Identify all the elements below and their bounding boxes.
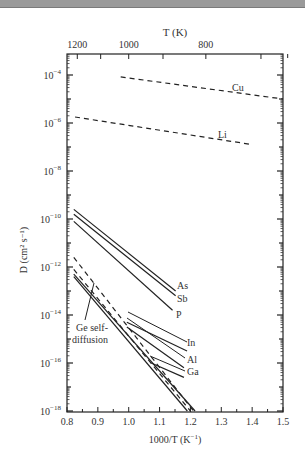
y-tick-label: 10−12 <box>40 260 61 273</box>
x-tick-label: 1.4 <box>246 416 259 427</box>
y-tick-label: 10−16 <box>40 356 61 369</box>
y-axis-title: D (cm² s⁻¹) <box>18 227 30 273</box>
y-tick-label: 10−14 <box>40 308 61 321</box>
x-tick-label: 1.0 <box>122 416 135 427</box>
label-al: Al <box>187 354 197 365</box>
label-ga: Ga <box>187 366 199 377</box>
top-axis-title: T (K) <box>163 26 188 39</box>
x-axis-title: 1000/T (K−1) <box>149 433 202 446</box>
axes-frame <box>67 54 283 412</box>
x-tick-label: 1.5 <box>277 416 290 427</box>
label-sb: Sb <box>177 293 188 304</box>
series-sb <box>74 214 176 296</box>
plot-frame <box>67 54 283 412</box>
top-x-tick-label: 1200 <box>67 39 87 50</box>
series-p <box>74 221 173 310</box>
label-ge-line1: Ge self- <box>76 322 108 333</box>
top-x-tick-label: 1000 <box>119 39 139 50</box>
label-p: P <box>176 309 182 320</box>
x-tick-label: 0.9 <box>92 416 105 427</box>
series-cu <box>121 77 283 99</box>
label-as: As <box>177 280 188 291</box>
series-as <box>74 209 176 291</box>
top-x-tick-label: 800 <box>198 39 213 50</box>
diffusion-chart: 0.80.91.01.11.21.31.41.51200100080010−41… <box>0 0 305 463</box>
x-tick-label: 1.3 <box>215 416 228 427</box>
x-tick-label: 1.1 <box>153 416 166 427</box>
label-cu: Cu <box>232 82 244 93</box>
y-tick-label: 10−6 <box>44 116 62 129</box>
al-pointer-line <box>127 318 185 358</box>
y-tick-label: 10−18 <box>40 404 61 417</box>
label-in: In <box>187 337 195 348</box>
x-tick-label: 1.2 <box>184 416 197 427</box>
label-ge-line2: diffusion <box>72 334 108 345</box>
y-tick-label: 10−8 <box>44 164 62 177</box>
series-al <box>127 327 184 368</box>
data-series <box>74 77 283 411</box>
y-tick-label: 10−10 <box>40 212 61 225</box>
y-tick-label: 10−4 <box>44 68 62 81</box>
label-li: Li <box>218 129 227 140</box>
x-tick-label: 0.8 <box>61 416 74 427</box>
